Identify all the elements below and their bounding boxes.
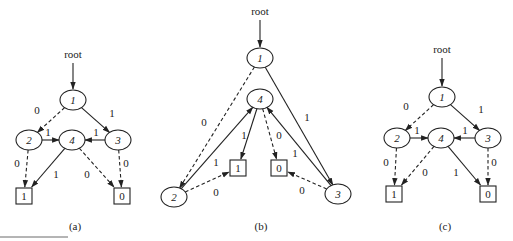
panel-c: root01110010124310(c) [383, 43, 501, 233]
node-label: 1 [70, 94, 76, 106]
caption-a: (a) [69, 220, 82, 233]
low-edge-1-to-2 [37, 108, 64, 133]
node-2: 2 [384, 128, 410, 148]
node-label: 3 [484, 132, 491, 144]
low-edge-3-to-T0 [119, 150, 122, 187]
edge-label: 1 [45, 126, 51, 138]
node-4: 4 [247, 89, 273, 109]
terminal-label: 1 [235, 162, 241, 174]
terminal-label: 0 [119, 190, 125, 202]
node-2: 2 [16, 130, 42, 150]
edge-label: 1 [53, 168, 59, 180]
edge-label: 0 [276, 129, 282, 141]
root-label: root [64, 48, 82, 60]
high-edge-4-to-T1 [32, 148, 65, 187]
terminal-label: 0 [276, 162, 282, 174]
bdd-figure: root01110100124310(a)root01110100142310(… [0, 0, 513, 241]
edge-label: 1 [93, 126, 99, 138]
root-label: root [433, 43, 451, 55]
edge-label: 1 [478, 103, 484, 115]
caption-b: (b) [255, 220, 268, 233]
edge-label: 0 [201, 116, 207, 128]
low-edge-2-to-T1 [185, 172, 229, 192]
edge-label: 1 [213, 156, 219, 168]
node-1: 1 [429, 87, 455, 107]
low-edge-2-to-T1 [25, 150, 28, 187]
node-label: 3 [334, 188, 341, 200]
panel-b: root01110100142310(b) [161, 5, 351, 233]
terminal-1: 1 [230, 160, 246, 176]
edge-label: 0 [84, 168, 90, 180]
panel-a: root01110100124310(a) [14, 48, 131, 233]
edge-label: 0 [491, 156, 497, 168]
node-label: 2 [394, 132, 400, 144]
edge-label: 0 [14, 157, 20, 169]
low-edge-4-to-T1 [402, 146, 434, 185]
terminal-label: 1 [391, 188, 397, 200]
node-2: 2 [161, 187, 187, 207]
edge-label: 1 [453, 166, 459, 178]
node-1: 1 [247, 48, 273, 68]
edge-label: 0 [422, 166, 428, 178]
edge-label: 0 [213, 186, 219, 198]
edge-label: 1 [292, 147, 298, 159]
terminal-label: 0 [485, 188, 491, 200]
node-label: 4 [257, 93, 263, 105]
node-4: 4 [59, 130, 85, 150]
node-3: 3 [105, 130, 131, 150]
terminal-1: 1 [386, 186, 402, 202]
node-label: 4 [438, 132, 444, 144]
terminal-0: 0 [480, 186, 496, 202]
terminal-1: 1 [16, 188, 32, 204]
edge-label: 1 [462, 124, 468, 136]
edge-label: 0 [299, 184, 305, 196]
edge-label: 0 [403, 100, 409, 112]
edge-label: 0 [34, 104, 40, 116]
edge-label: 0 [383, 156, 389, 168]
node-4: 4 [428, 128, 454, 148]
node-3: 3 [475, 128, 501, 148]
node-label: 1 [257, 52, 263, 64]
node-label: 4 [69, 134, 75, 146]
node-label: 2 [26, 134, 32, 146]
node-label: 3 [114, 134, 121, 146]
node-label: 2 [171, 191, 177, 203]
node-1: 1 [60, 90, 86, 110]
node-label: 1 [439, 91, 445, 103]
edge-label: 1 [241, 129, 247, 141]
caption-c: (c) [439, 220, 452, 233]
terminal-label: 1 [21, 190, 27, 202]
root-label: root [251, 5, 269, 17]
node-3: 3 [325, 184, 351, 204]
terminal-0: 0 [271, 160, 287, 176]
low-edge-3-to-T0 [288, 172, 327, 189]
edge-label: 1 [414, 124, 420, 136]
edge-label: 1 [109, 107, 115, 119]
edge-label: 1 [304, 111, 310, 123]
edge-label: 0 [123, 157, 129, 169]
low-edge-2-to-T1 [394, 148, 396, 185]
terminal-0: 0 [114, 188, 130, 204]
